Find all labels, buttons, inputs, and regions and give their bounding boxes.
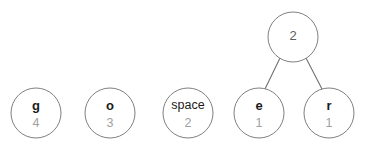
node-count-g: 4 xyxy=(33,116,40,130)
leaf-node-e[interactable]: e 1 xyxy=(234,88,284,138)
node-count-space: 2 xyxy=(185,116,192,130)
node-layer: g 4 o 3 space 2 e 1 r 1 xyxy=(11,12,354,138)
huffman-diagram-canvas: g 4 o 3 space 2 e 1 r 1 xyxy=(0,0,365,144)
node-symbol-space: space xyxy=(171,98,204,112)
leaf-node-r[interactable]: r 1 xyxy=(304,88,354,138)
leaf-node-o[interactable]: o 3 xyxy=(85,88,135,138)
node-count-o: 3 xyxy=(107,116,114,130)
edge-internal2-to-e xyxy=(265,58,280,89)
node-count-r: 1 xyxy=(326,116,333,130)
leaf-node-space[interactable]: space 2 xyxy=(163,88,213,138)
node-count-e: 1 xyxy=(256,116,263,130)
huffman-diagram-svg: g 4 o 3 space 2 e 1 r 1 xyxy=(0,0,365,144)
node-circle-space xyxy=(163,88,213,138)
edge-layer xyxy=(265,58,322,89)
leaf-node-g[interactable]: g 4 xyxy=(11,88,61,138)
node-symbol-e: e xyxy=(255,98,262,113)
node-symbol-o: o xyxy=(106,98,114,113)
node-symbol-g: g xyxy=(32,98,40,113)
edge-internal2-to-r xyxy=(306,58,322,89)
internal-node-2[interactable]: 2 xyxy=(268,12,318,62)
node-symbol-r: r xyxy=(326,98,331,113)
node-count-internal2: 2 xyxy=(289,28,296,43)
